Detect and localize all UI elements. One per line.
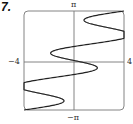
x-min-label: −4 — [8, 57, 20, 66]
y-max-label: π — [71, 0, 76, 9]
y-min-label: −π — [67, 113, 79, 122]
plot-area — [0, 0, 133, 124]
x-max-label: 4 — [127, 57, 132, 66]
